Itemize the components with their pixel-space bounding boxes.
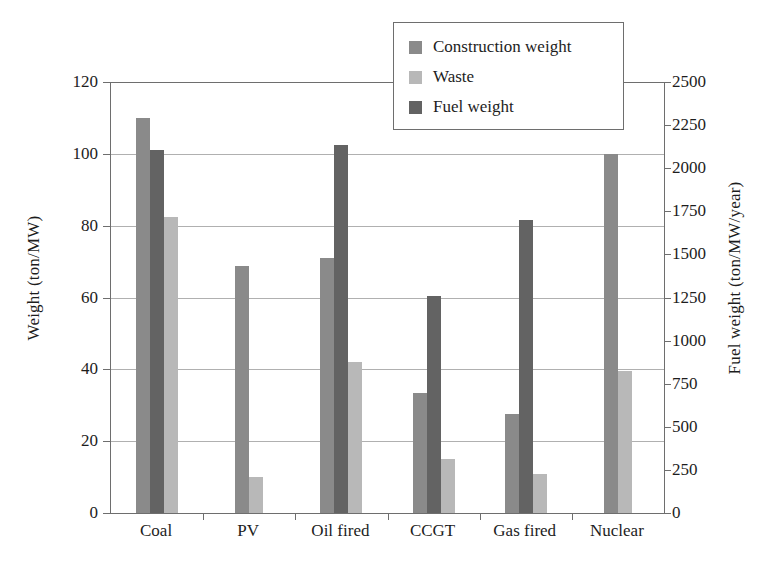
y-axis-left-label: 40 bbox=[40, 360, 98, 377]
y-axis-right-tick bbox=[664, 254, 671, 255]
gridline bbox=[111, 226, 664, 227]
y-axis-right-tick bbox=[664, 470, 671, 471]
y-axis-left-tick bbox=[103, 226, 110, 227]
bar bbox=[235, 266, 249, 513]
bar bbox=[505, 414, 519, 513]
legend-item: Fuel weight bbox=[409, 92, 623, 122]
x-axis-label-pv: PV bbox=[202, 521, 294, 541]
x-axis-tick bbox=[295, 513, 296, 520]
bar-chart: Weight (ton/MW) Fuel weight (ton/MW/year… bbox=[0, 0, 774, 574]
legend-swatch-icon bbox=[409, 41, 422, 54]
y-axis-left-tick bbox=[103, 369, 110, 370]
bar bbox=[533, 474, 547, 514]
y-axis-right-label: 2000 bbox=[672, 159, 732, 176]
legend-swatch-icon bbox=[409, 101, 422, 114]
legend-label: Waste bbox=[433, 67, 474, 87]
bar bbox=[618, 371, 632, 513]
y-axis-left-title: Weight (ton/MW) bbox=[24, 128, 44, 428]
plot-area bbox=[110, 82, 665, 514]
x-axis-tick bbox=[572, 513, 573, 520]
x-axis-label-gas-fired: Gas fired bbox=[479, 521, 571, 541]
y-axis-right-tick bbox=[664, 298, 671, 299]
bar bbox=[519, 220, 533, 513]
gridline bbox=[111, 441, 664, 442]
y-axis-right-label: 1000 bbox=[672, 332, 732, 349]
y-axis-right-tick bbox=[664, 82, 671, 83]
y-axis-left-tick bbox=[103, 154, 110, 155]
bar bbox=[604, 154, 618, 513]
y-axis-left-label: 0 bbox=[40, 504, 98, 521]
y-axis-right-label: 2500 bbox=[672, 73, 732, 90]
bar bbox=[348, 362, 362, 513]
y-axis-left-tick bbox=[103, 82, 110, 83]
bar bbox=[427, 296, 441, 513]
y-axis-left-tick bbox=[103, 441, 110, 442]
y-axis-left-label: 20 bbox=[40, 432, 98, 449]
y-axis-right-tick bbox=[664, 427, 671, 428]
y-axis-left-label: 120 bbox=[40, 73, 98, 90]
gridline bbox=[111, 154, 664, 155]
bar bbox=[320, 258, 334, 513]
legend-label: Construction weight bbox=[433, 37, 571, 57]
bar bbox=[413, 393, 427, 513]
y-axis-right-label: 1250 bbox=[672, 289, 732, 306]
y-axis-left-tick bbox=[103, 298, 110, 299]
bar bbox=[441, 459, 455, 513]
legend-swatch-icon bbox=[409, 71, 422, 84]
bar bbox=[334, 145, 348, 513]
legend-item: Construction weight bbox=[409, 32, 623, 62]
y-axis-right-label: 750 bbox=[672, 375, 732, 392]
x-axis-tick bbox=[203, 513, 204, 520]
y-axis-right-label: 1500 bbox=[672, 245, 732, 262]
x-axis-label-oil-fired: Oil fired bbox=[294, 521, 386, 541]
y-axis-right-tick bbox=[664, 513, 671, 514]
x-axis-tick bbox=[388, 513, 389, 520]
bar bbox=[150, 150, 164, 513]
y-axis-right-label: 500 bbox=[672, 418, 732, 435]
x-axis-label-coal: Coal bbox=[110, 521, 202, 541]
bar bbox=[164, 217, 178, 513]
y-axis-left-label: 100 bbox=[40, 145, 98, 162]
bar bbox=[136, 118, 150, 513]
y-axis-left-tick bbox=[103, 513, 110, 514]
y-axis-right-tick bbox=[664, 168, 671, 169]
legend-label: Fuel weight bbox=[433, 97, 514, 117]
gridline bbox=[111, 298, 664, 299]
legend-item: Waste bbox=[409, 62, 623, 92]
y-axis-right-label: 2250 bbox=[672, 116, 732, 133]
y-axis-left-label: 80 bbox=[40, 217, 98, 234]
y-axis-right-label: 250 bbox=[672, 461, 732, 478]
chart-legend: Construction weightWasteFuel weight bbox=[393, 22, 624, 130]
y-axis-right-label: 1750 bbox=[672, 202, 732, 219]
y-axis-left-label: 60 bbox=[40, 289, 98, 306]
x-axis-label-ccgt: CCGT bbox=[387, 521, 479, 541]
y-axis-right-tick bbox=[664, 211, 671, 212]
gridline bbox=[111, 369, 664, 370]
y-axis-right-tick bbox=[664, 384, 671, 385]
x-axis-tick bbox=[480, 513, 481, 520]
x-axis-label-nuclear: Nuclear bbox=[571, 521, 663, 541]
y-axis-right-label: 0 bbox=[672, 504, 732, 521]
bar bbox=[249, 477, 263, 513]
y-axis-right-tick bbox=[664, 341, 671, 342]
y-axis-right-tick bbox=[664, 125, 671, 126]
